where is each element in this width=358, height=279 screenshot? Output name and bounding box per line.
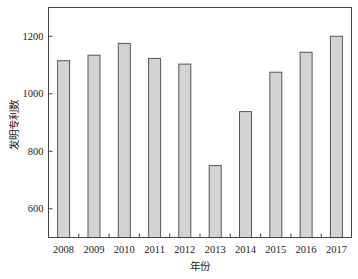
bar-2012: [179, 64, 191, 237]
bar-2015: [270, 72, 282, 237]
x-tick-label: 2008: [53, 244, 74, 255]
bars-group: [58, 36, 343, 237]
y-axis-title: 发明专利数: [8, 99, 20, 150]
bar-2013: [209, 166, 221, 238]
y-tick-label: 600: [28, 203, 44, 214]
x-tick-label: 2010: [114, 244, 135, 255]
bar-2011: [149, 58, 161, 237]
x-tick-label: 2012: [174, 244, 195, 255]
bar-chart: 60080010001200 2008200920102011201220132…: [0, 0, 358, 279]
bar-2008: [58, 61, 70, 238]
x-tick-label: 2014: [235, 244, 257, 255]
bar-2016: [300, 52, 312, 237]
x-tick-label: 2013: [205, 244, 226, 255]
bar-2009: [88, 55, 100, 237]
x-axis-title: 年份: [190, 260, 211, 272]
x-tick-label: 2015: [265, 244, 286, 255]
bar-2017: [330, 36, 342, 237]
bar-2014: [240, 112, 252, 238]
bar-2010: [118, 43, 130, 237]
x-tick-label: 2009: [84, 244, 105, 255]
x-tick-label: 2016: [296, 244, 317, 255]
y-tick-label: 1000: [23, 88, 44, 99]
y-tick-label: 1200: [23, 31, 44, 42]
y-tick-label: 800: [28, 146, 44, 157]
x-tick-label: 2017: [326, 244, 347, 255]
x-tick-label: 2011: [144, 244, 165, 255]
